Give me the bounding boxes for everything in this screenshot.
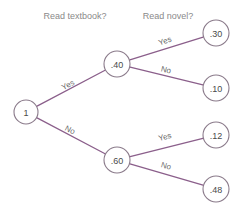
node-value-tb_yes: .40 [111,60,124,70]
edge-label-e-root-tbyes: Yes [60,78,76,92]
probability-tree-diagram: 1.40.60.30.10.12.48 YesNoYesNoYesNo Read… [0,0,235,214]
tree-node-tb_yes: .40 [104,51,130,77]
edge-label-e-tbno-l3: Yes [158,131,173,143]
column-header-1: Read textbook? [43,11,106,21]
node-value-tb_no: .60 [111,156,124,166]
tree-node-leaf4: .48 [203,176,229,202]
edge-label-e-tbno-l4: No [160,160,173,172]
node-value-leaf4: .48 [210,185,223,195]
tree-node-leaf1: .30 [203,20,229,46]
node-value-root: 1 [23,108,28,118]
edge-label-e-root-tbno: No [63,124,77,137]
tree-edge-root-to-tb_no [37,118,105,154]
tree-node-leaf3: .12 [203,122,229,148]
column-headers-layer: Read textbook?Read novel? [43,11,193,21]
tree-node-leaf2: .10 [203,75,229,101]
edge-label-e-tbyes-l1: Yes [157,35,172,48]
tree-canvas: 1.40.60.30.10.12.48 YesNoYesNoYesNo Read… [0,0,235,214]
node-value-leaf3: .12 [210,131,223,141]
column-header-2: Read novel? [143,11,194,21]
nodes-layer: 1.40.60.30.10.12.48 [14,20,229,202]
tree-node-root: 1 [14,100,38,124]
node-value-leaf2: .10 [210,84,223,94]
node-value-leaf1: .30 [210,29,223,39]
tree-node-tb_no: .60 [104,147,130,173]
edge-label-e-tbyes-l2: No [160,64,173,75]
